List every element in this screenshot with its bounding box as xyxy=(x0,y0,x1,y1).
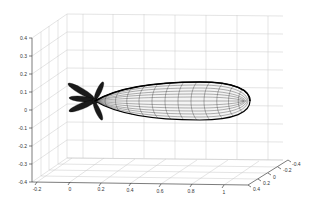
svg-text:-0.2: -0.2 xyxy=(18,143,27,149)
main-lobe xyxy=(95,82,250,120)
radiation-pattern xyxy=(67,81,250,121)
floor-grid xyxy=(37,158,283,185)
svg-text:1: 1 xyxy=(223,189,226,195)
svg-text:0.8: 0.8 xyxy=(188,188,195,194)
x-axis-line xyxy=(32,182,248,185)
svg-text:0.3: 0.3 xyxy=(20,53,27,59)
z-axis-ticks: 0.4 0.3 0.2 0.1 0 -0.1 -0.2 -0.3 -0.4 xyxy=(18,35,32,185)
svg-text:0.1: 0.1 xyxy=(20,89,27,95)
y-axis-ticks: -0.4 -0.2 0 0.2 0.4 xyxy=(248,160,301,192)
svg-text:0: 0 xyxy=(24,107,27,113)
svg-text:0.6: 0.6 xyxy=(157,188,164,194)
svg-text:-0.1: -0.1 xyxy=(18,125,27,131)
svg-text:-0.2: -0.2 xyxy=(33,186,42,192)
svg-text:0.4: 0.4 xyxy=(20,35,27,41)
svg-text:0: 0 xyxy=(69,186,72,192)
svg-text:0.4: 0.4 xyxy=(253,186,260,192)
plot-3d: 0.4 0.3 0.2 0.1 0 -0.1 -0.2 -0.3 -0.4 -0… xyxy=(0,0,310,209)
svg-text:0.2: 0.2 xyxy=(20,71,27,77)
svg-text:0.2: 0.2 xyxy=(263,180,270,186)
svg-text:0.2: 0.2 xyxy=(98,186,105,192)
svg-text:-0.2: -0.2 xyxy=(283,167,292,173)
svg-text:0: 0 xyxy=(273,174,276,180)
left-wall-grid xyxy=(32,14,67,182)
svg-text:0.4: 0.4 xyxy=(127,187,134,193)
svg-text:-0.3: -0.3 xyxy=(18,161,27,167)
svg-text:-0.4: -0.4 xyxy=(292,161,301,167)
svg-text:-0.4: -0.4 xyxy=(18,179,27,185)
